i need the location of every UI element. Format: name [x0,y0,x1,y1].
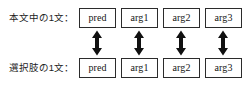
candidate-box-arg2: arg2 [163,58,200,78]
connector-layer [0,30,252,56]
source-box-arg3-label: arg3 [215,13,233,23]
row-label-source: 本文中の1文： [0,7,76,29]
double-arrow-icon-arg2 [174,30,188,56]
candidate-box-track: pred arg1 arg2 arg3 [76,58,252,78]
diagram-row-source: 本文中の1文： pred arg1 arg2 arg3 [0,7,252,29]
source-box-pred: pred [79,8,116,28]
alignment-diagram: 本文中の1文： pred arg1 arg2 arg3 [0,0,252,86]
source-box-pred-label: pred [88,13,106,23]
source-box-arg1: arg1 [121,8,158,28]
candidate-box-arg1: arg1 [121,58,158,78]
double-arrow-icon-arg3 [216,30,230,56]
candidate-box-arg3-label: arg3 [215,63,233,73]
candidate-box-arg1-label: arg1 [131,63,149,73]
row-label-candidate: 選択肢の1文： [0,57,76,79]
double-arrow-icon-arg1 [132,30,146,56]
source-box-arg3: arg3 [205,8,242,28]
candidate-box-arg2-label: arg2 [173,63,191,73]
source-box-arg1-label: arg1 [131,13,149,23]
candidate-box-pred-label: pred [88,63,106,73]
double-arrow-icon-pred [90,30,104,56]
candidate-box-pred: pred [79,58,116,78]
source-box-track: pred arg1 arg2 arg3 [76,8,252,28]
candidate-box-arg3: arg3 [205,58,242,78]
source-box-arg2: arg2 [163,8,200,28]
diagram-row-candidate: 選択肢の1文： pred arg1 arg2 arg3 [0,57,252,79]
source-box-arg2-label: arg2 [173,13,191,23]
